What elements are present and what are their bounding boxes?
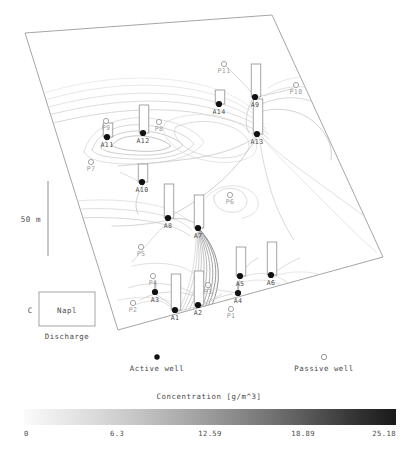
active-well-marker[interactable] bbox=[235, 290, 241, 296]
well-label: A11 bbox=[101, 141, 114, 149]
passive-well-marker[interactable] bbox=[293, 82, 298, 87]
active-well-marker[interactable] bbox=[140, 130, 146, 136]
passive-well-marker[interactable] bbox=[130, 300, 135, 305]
well-label: A9 bbox=[251, 101, 260, 109]
passive-well-marker[interactable] bbox=[205, 282, 210, 287]
passive-well[interactable]: P1 bbox=[227, 306, 236, 320]
active-well-marker[interactable] bbox=[237, 273, 243, 279]
active-well[interactable]: A9 bbox=[251, 64, 261, 109]
passive-well-marker[interactable] bbox=[88, 159, 93, 164]
passive-well[interactable]: P9 bbox=[102, 118, 111, 132]
well-label: A10 bbox=[136, 186, 149, 194]
well-label: A2 bbox=[194, 309, 203, 317]
well-label: A3 bbox=[151, 296, 160, 304]
colorbar-tick-labels: 06.312.5918.8925.18 bbox=[24, 429, 396, 443]
passive-well-marker[interactable] bbox=[103, 118, 108, 123]
well-label: P8 bbox=[155, 125, 164, 133]
active-well-marker[interactable] bbox=[216, 101, 222, 107]
active-well-marker[interactable] bbox=[172, 307, 178, 313]
well-label: P5 bbox=[137, 250, 146, 258]
active-well[interactable]: A2 bbox=[194, 271, 204, 317]
colorbar-tick: 6.3 bbox=[110, 429, 124, 438]
well-bar-glyph bbox=[236, 247, 246, 276]
colorbar-tick: 0 bbox=[24, 429, 29, 438]
passive-well[interactable]: P6 bbox=[226, 192, 235, 206]
napl-discharge-caption: Discharge bbox=[45, 332, 90, 341]
napl-prefix-label: C bbox=[28, 306, 32, 315]
well-bar-glyph bbox=[139, 105, 149, 133]
well-label: A8 bbox=[164, 222, 173, 230]
active-well[interactable]: A6 bbox=[267, 242, 277, 287]
active-well-marker[interactable] bbox=[152, 289, 158, 295]
colorbar-title: Concentration [g/m^3] bbox=[0, 392, 418, 401]
passive-well-marker[interactable] bbox=[156, 119, 161, 124]
well-label: A4 bbox=[234, 297, 243, 305]
active-well-legend-label: Active well bbox=[130, 364, 184, 373]
well-label: P11 bbox=[218, 67, 231, 75]
active-well-legend-marker bbox=[154, 354, 159, 359]
well-bar-glyph bbox=[194, 271, 204, 305]
passive-well-legend-marker bbox=[321, 354, 326, 359]
well-bar-glyph bbox=[251, 64, 261, 97]
passive-well[interactable]: P5 bbox=[137, 244, 146, 258]
passive-well[interactable]: P4 bbox=[149, 273, 158, 287]
active-well-marker[interactable] bbox=[165, 215, 171, 221]
well-label: P7 bbox=[87, 165, 96, 173]
well-label: A12 bbox=[137, 137, 150, 145]
active-well-marker[interactable] bbox=[195, 225, 201, 231]
passive-well-marker[interactable] bbox=[138, 244, 143, 249]
well-bar-glyph bbox=[171, 274, 181, 310]
well-label: P9 bbox=[102, 124, 111, 132]
well-bar-glyph bbox=[164, 184, 174, 218]
active-well[interactable]: A5 bbox=[236, 247, 246, 288]
colorbar-gradient bbox=[24, 409, 396, 425]
colorbar: Concentration [g/m^3] 06.312.5918.8925.1… bbox=[0, 392, 418, 460]
passive-well[interactable]: P3 bbox=[204, 282, 213, 296]
active-well[interactable]: A1 bbox=[171, 274, 181, 322]
passive-well-marker[interactable] bbox=[221, 61, 226, 66]
well-label: A6 bbox=[267, 279, 276, 287]
passive-well[interactable]: P8 bbox=[155, 119, 164, 133]
well-label: A14 bbox=[213, 108, 226, 116]
active-well[interactable]: A8 bbox=[164, 184, 174, 230]
well-bar-glyph bbox=[267, 242, 277, 275]
passive-well-legend-label: Passive well bbox=[294, 364, 353, 373]
well-label: A13 bbox=[251, 138, 264, 146]
well-label: P4 bbox=[149, 279, 158, 287]
passive-well-marker[interactable] bbox=[228, 306, 233, 311]
passive-well-marker[interactable] bbox=[227, 192, 232, 197]
wells-legend: Active well Passive well bbox=[130, 354, 354, 373]
active-well-marker[interactable] bbox=[104, 134, 110, 140]
active-well-marker[interactable] bbox=[254, 131, 260, 137]
colorbar-tick: 12.59 bbox=[198, 429, 222, 438]
plume-map-figure: 50 m Napl C Discharge A1A2A3A4A5A6A7A8A1… bbox=[0, 0, 418, 460]
colorbar-tick: 25.18 bbox=[372, 429, 396, 438]
active-well-marker[interactable] bbox=[268, 272, 274, 278]
well-label: P1 bbox=[227, 312, 236, 320]
passive-well[interactable]: P7 bbox=[87, 159, 96, 173]
well-label: A7 bbox=[194, 232, 203, 240]
plume-map-plot: 50 m Napl C Discharge A1A2A3A4A5A6A7A8A1… bbox=[0, 0, 418, 392]
passive-well[interactable]: P2 bbox=[129, 300, 138, 314]
scale-bar: 50 m bbox=[21, 181, 48, 256]
active-well-marker[interactable] bbox=[139, 179, 145, 185]
well-label: P10 bbox=[290, 88, 303, 96]
colorbar-tick: 18.89 bbox=[291, 429, 315, 438]
well-label: P3 bbox=[204, 288, 213, 296]
scale-bar-label: 50 m bbox=[21, 215, 41, 224]
napl-discharge-box: Napl C Discharge bbox=[28, 292, 95, 341]
passive-well-marker[interactable] bbox=[150, 273, 155, 278]
active-well[interactable]: A7 bbox=[194, 195, 204, 240]
well-label: P2 bbox=[129, 306, 138, 314]
well-bar-glyph bbox=[194, 195, 204, 228]
active-well-marker[interactable] bbox=[252, 94, 258, 100]
active-well-marker[interactable] bbox=[195, 302, 201, 308]
well-label: P6 bbox=[226, 198, 235, 206]
well-label: A5 bbox=[236, 280, 245, 288]
well-label: A1 bbox=[171, 314, 180, 322]
napl-box-label: Napl bbox=[57, 306, 77, 315]
